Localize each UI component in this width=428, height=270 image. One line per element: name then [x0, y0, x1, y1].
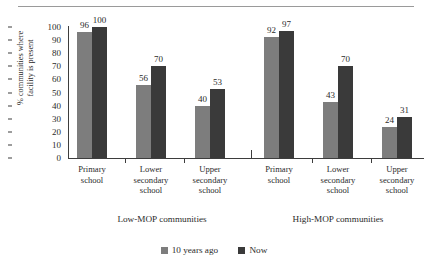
bar-value-label: 100	[87, 16, 112, 25]
x-axis-category-label-line: Upper	[173, 164, 247, 175]
y-axis-tick-label: 80	[12, 49, 68, 58]
y-axis-tick-mark	[8, 144, 12, 145]
x-axis-tick-separator	[184, 158, 185, 163]
chart-figure: % communities where facility is present …	[0, 0, 428, 270]
x-axis-category-label: Uppersecondaryschool	[173, 164, 247, 196]
x-axis-category-label-line: secondary	[173, 175, 247, 186]
bar-past	[77, 32, 92, 158]
legend-item-now: Now	[238, 245, 267, 256]
bar-value-label: 70	[333, 55, 358, 64]
y-axis-tick-mark	[8, 27, 12, 28]
y-axis-tick-label: 10	[12, 140, 68, 149]
y-axis-tick-label: 50	[12, 88, 68, 97]
bar-past	[264, 37, 279, 158]
y-axis-tick-mark	[8, 158, 12, 159]
chart-legend: 10 years ago Now	[0, 245, 428, 256]
x-axis-tick-separator	[371, 158, 372, 163]
bar-past	[136, 85, 151, 158]
y-axis-tick-label: 0	[12, 154, 68, 163]
x-axis-category-label-line: school	[360, 185, 428, 196]
y-axis-tick-mark	[8, 66, 12, 67]
y-axis-tick-mark	[8, 53, 12, 54]
x-axis-tick-separator	[125, 158, 126, 163]
bar-past	[323, 102, 338, 158]
legend-swatch-icon-now	[238, 247, 245, 254]
y-axis-tick-label: 20	[12, 127, 68, 136]
bar-value-label: 53	[205, 78, 230, 87]
bar-now	[338, 66, 353, 158]
legend-item-past: 10 years ago	[161, 245, 218, 256]
bar-now	[151, 66, 166, 158]
x-axis-category-label-line: school	[173, 185, 247, 196]
bar-now	[92, 27, 107, 158]
x-axis-tick-separator	[312, 158, 313, 163]
plot-area: 1009080706050403020100961005670405392974…	[68, 27, 424, 158]
bar-value-label: 31	[392, 106, 417, 115]
bar-value-label: 70	[146, 55, 171, 64]
bar-past	[195, 106, 210, 158]
bar-value-label: 97	[274, 20, 299, 29]
bar-now	[279, 31, 294, 158]
y-axis-tick-label: 60	[12, 75, 68, 84]
y-axis-tick-mark	[8, 131, 12, 132]
x-axis-category-label-line: Upper	[360, 164, 428, 175]
x-axis-group-separator	[251, 150, 252, 159]
y-axis-tick-label: 30	[12, 114, 68, 123]
y-axis-tick-mark	[8, 79, 12, 80]
legend-label-past: 10 years ago	[172, 245, 218, 256]
bar-now	[210, 89, 225, 158]
y-axis-tick-mark	[8, 40, 12, 41]
y-axis-tick-mark	[8, 105, 12, 106]
bar-past	[382, 127, 397, 158]
legend-label-now: Now	[249, 245, 267, 256]
y-axis-tick-label: 70	[12, 62, 68, 71]
x-axis-category-label: Uppersecondaryschool	[360, 164, 428, 196]
y-axis-tick-label: 90	[12, 36, 68, 45]
y-axis-tick-label: 100	[12, 23, 68, 32]
y-axis-tick-label: 40	[12, 101, 68, 110]
bar-now	[397, 117, 412, 158]
y-axis-tick-mark	[8, 118, 12, 119]
x-axis-category-label-line: secondary	[360, 175, 428, 186]
group-label: Low-MOP communities	[72, 214, 252, 224]
legend-swatch-icon-past	[161, 247, 168, 254]
top-divider-rule	[18, 6, 414, 7]
y-axis-tick-mark	[8, 92, 12, 93]
group-label: High-MOP communities	[248, 214, 428, 224]
